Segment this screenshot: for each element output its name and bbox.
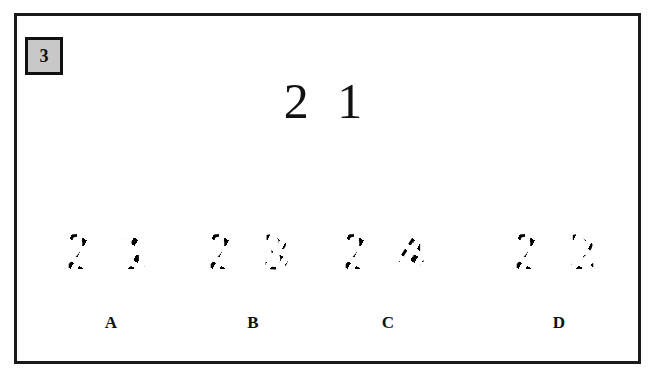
fragmented-number-b: 2 3 [183,222,323,282]
question-number-badge: 3 [25,37,63,75]
target-number: 2 1 [0,72,654,130]
option-d-figure[interactable]: 2 2 [489,222,629,282]
option-label-a[interactable]: A [41,313,181,333]
option-label-c[interactable]: C [318,313,458,333]
option-b-figure[interactable]: 2 3 [183,222,323,282]
fragmented-number-c: 2 4 [318,222,458,282]
option-label-b[interactable]: B [183,313,323,333]
option-a-figure[interactable]: 2 1 [41,222,181,282]
fragmented-number-a: 2 1 [41,222,181,282]
option-c-figure[interactable]: 2 4 [318,222,458,282]
question-number: 3 [40,46,49,67]
option-label-d[interactable]: D [489,313,629,333]
question-frame [14,13,641,364]
fragmented-number-d: 2 2 [489,222,629,282]
